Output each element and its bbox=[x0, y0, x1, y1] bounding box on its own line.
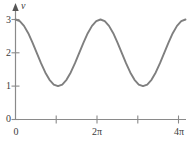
x-tick-label-0: 0 bbox=[4, 127, 28, 137]
y-axis-arrow-icon bbox=[12, 3, 18, 11]
y-tick-label-2: 2 bbox=[0, 48, 11, 58]
y-tick-label-1: 1 bbox=[0, 81, 11, 91]
y-tick-label-3: 3 bbox=[0, 15, 11, 25]
data-curve bbox=[16, 20, 186, 87]
y-axis-label: v bbox=[21, 1, 25, 11]
y-tick-label-0: 0 bbox=[0, 114, 11, 124]
x-tick-label-2pi: 2π bbox=[85, 127, 109, 137]
x-tick-label-4pi: 4π bbox=[167, 127, 190, 137]
graph-figure: 3 2 1 0 0 2π 4π v bbox=[0, 0, 190, 149]
